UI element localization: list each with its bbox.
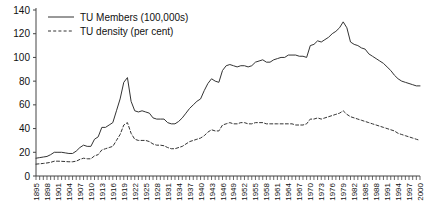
x-tick-label: 1985 (361, 182, 370, 200)
x-tick-label: 1931 (164, 182, 173, 200)
x-tick-label: 1940 (197, 182, 206, 200)
y-tick-label: 80 (19, 76, 31, 87)
x-tick-label: 1910 (87, 182, 96, 200)
x-tick-label: 1928 (153, 182, 162, 200)
x-tick-label: 1997 (405, 182, 414, 200)
x-tick-label: 1955 (251, 182, 260, 200)
chart-legend: TU Members (100,000s)TU density (per cen… (48, 12, 188, 37)
x-tick-label: 1964 (284, 182, 293, 200)
x-tick-label: 1970 (306, 182, 315, 200)
line-chart: 020406080100120140 189518981901190419071… (0, 0, 424, 224)
x-tick-label: 1958 (262, 182, 271, 200)
x-tick-label: 1988 (372, 182, 381, 200)
x-tick-label: 1967 (295, 182, 304, 200)
x-tick-label: 1934 (175, 182, 184, 200)
x-tick-label: 1994 (394, 182, 403, 200)
x-tick-label: 1949 (229, 182, 238, 200)
series-line-2 (36, 111, 420, 164)
y-tick-label: 140 (13, 5, 30, 16)
x-tick-label: 1913 (98, 182, 107, 200)
y-axis: 020406080100120140 (13, 5, 36, 182)
x-tick-label: 1916 (109, 182, 118, 200)
legend-label-2: TU density (per cent) (80, 26, 173, 37)
y-tick-label: 120 (13, 28, 30, 39)
y-tick-label: 20 (19, 147, 31, 158)
x-tick-label: 1991 (383, 182, 392, 200)
x-tick-label: 1898 (43, 182, 52, 200)
series-line-1 (36, 22, 420, 158)
x-tick-label: 1982 (350, 182, 359, 200)
x-tick-label: 1937 (186, 182, 195, 200)
x-tick-label: 1901 (54, 182, 63, 200)
x-tick-label: 1895 (32, 182, 41, 200)
y-tick-label: 100 (13, 52, 30, 63)
series-lines (36, 22, 420, 164)
chart-container: 020406080100120140 189518981901190419071… (0, 0, 424, 224)
x-tick-label: 1919 (120, 182, 129, 200)
x-tick-label: 1943 (208, 182, 217, 200)
legend-label-1: TU Members (100,000s) (80, 12, 188, 23)
x-tick-label: 1922 (131, 182, 140, 200)
x-axis: 1895189819011904190719101913191619191922… (32, 176, 424, 201)
x-tick-label: 1952 (240, 182, 249, 200)
x-tick-label: 2000 (416, 182, 424, 200)
y-tick-label: 60 (19, 99, 31, 110)
x-tick-label: 1946 (219, 182, 228, 200)
x-tick-label: 1976 (328, 182, 337, 200)
y-tick-label: 0 (24, 171, 30, 182)
x-tick-label: 1925 (142, 182, 151, 200)
x-tick-label: 1973 (317, 182, 326, 200)
x-tick-label: 1907 (76, 182, 85, 200)
x-tick-label: 1904 (65, 182, 74, 200)
x-tick-label: 1979 (339, 182, 348, 200)
y-tick-label: 40 (19, 123, 31, 134)
x-tick-label: 1961 (273, 182, 282, 200)
